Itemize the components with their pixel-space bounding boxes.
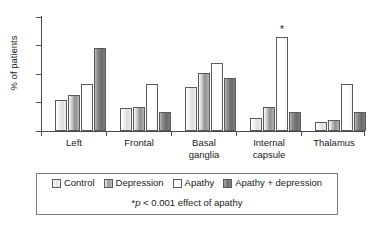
legend-note-rest: < 0.001 effect of apathy [140, 197, 242, 208]
bar-internal-capsule-depression [263, 107, 275, 131]
x-tick-sep-3 [236, 131, 237, 136]
legend-entries: Control Depression Apathy Apathy + depre… [37, 178, 337, 188]
legend-item-control: Control [52, 178, 95, 188]
bar-left-depression [68, 95, 80, 131]
bar-frontal-control [120, 108, 132, 131]
y-axis-title: % of patients [9, 18, 19, 108]
bar-left-apathy [81, 84, 93, 131]
plot-area: * [41, 17, 365, 131]
bar-basal-ganglia-apathy [211, 63, 223, 131]
legend-label-apathy: Apathy [185, 178, 215, 188]
bar-basal-ganglia-apathy-depression [224, 78, 236, 131]
x-label-thalamus: Thalamus [294, 137, 374, 149]
x-tick-sep-1 [106, 131, 107, 136]
bar-thalamus-apathy [341, 84, 353, 131]
bar-basal-ganglia-control [185, 87, 197, 131]
bar-left-apathy-depression [94, 48, 106, 131]
legend: Control Depression Apathy Apathy + depre… [36, 173, 338, 215]
x-label-thalamus-line1: Thalamus [294, 137, 374, 149]
x-tick-sep-4 [301, 131, 302, 136]
bar-thalamus-depression [328, 120, 340, 131]
x-tick-sep-2 [171, 131, 172, 136]
bar-chart-figure: % of patients 80 60 40 20 0 * Left Front… [0, 0, 375, 228]
bar-thalamus-apathy-depression [354, 112, 366, 131]
bar-frontal-apathy [146, 84, 158, 131]
bar-basal-ganglia-depression [198, 73, 210, 131]
bar-frontal-apathy-depression [159, 112, 171, 131]
bar-internal-capsule-control [250, 118, 262, 131]
legend-significance-note: *p < 0.001 effect of apathy [37, 197, 337, 208]
x-axis-line [41, 131, 365, 132]
legend-label-apathy-depression: Apathy + depression [235, 178, 322, 188]
bar-frontal-depression [133, 107, 145, 131]
bar-internal-capsule-apathy [276, 37, 288, 131]
bar-left-control [55, 100, 67, 131]
bar-thalamus-control [315, 122, 327, 131]
x-tick-sep-0 [41, 131, 42, 136]
legend-label-depression: Depression [116, 178, 164, 188]
significance-star-internal-capsule: * [275, 25, 289, 35]
legend-swatch-apathy-depression [223, 179, 232, 188]
legend-swatch-depression [104, 179, 113, 188]
x-label-internal-capsule-line2: capsule [229, 149, 309, 161]
legend-item-depression: Depression [104, 178, 164, 188]
x-tick-sep-5 [364, 131, 365, 136]
bar-internal-capsule-apathy-depression [289, 112, 301, 131]
legend-item-apathy-depression: Apathy + depression [223, 178, 322, 188]
legend-item-apathy: Apathy [173, 178, 215, 188]
legend-swatch-apathy [173, 179, 182, 188]
legend-label-control: Control [64, 178, 95, 188]
legend-swatch-control [52, 179, 61, 188]
